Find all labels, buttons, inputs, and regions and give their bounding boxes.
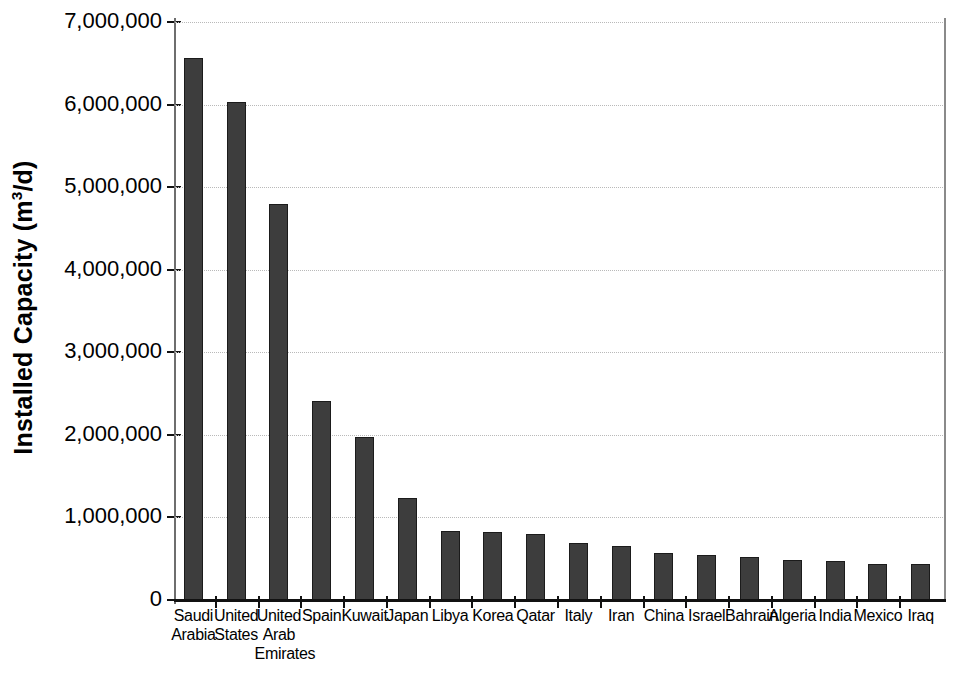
plot-area xyxy=(175,22,945,600)
x-axis-category-label: Kuwait xyxy=(340,606,389,625)
x-axis-category-label: Mexico xyxy=(853,606,902,625)
x-axis-category-label: Qatar xyxy=(511,606,560,625)
y-axis-tick-label: 6,000,000 xyxy=(0,93,162,115)
bar xyxy=(697,555,716,600)
y-axis-tick-label: 5,000,000 xyxy=(0,175,162,197)
bar xyxy=(483,532,502,600)
gridline xyxy=(175,270,945,271)
bar xyxy=(269,204,288,600)
bar xyxy=(783,560,802,600)
x-axis-category-label: United Arab Emirates xyxy=(255,606,304,663)
bar xyxy=(569,543,588,600)
bar xyxy=(826,561,845,600)
bar xyxy=(911,564,930,600)
y-axis-tick-label: 1,000,000 xyxy=(0,505,162,527)
x-axis-category-label: Libya xyxy=(426,606,475,625)
y-axis-title-main: Installed Capacity (m xyxy=(9,200,37,454)
y-axis-tick-label: 3,000,000 xyxy=(0,340,162,362)
bar xyxy=(441,531,460,600)
x-axis-category-label: Iran xyxy=(597,606,646,625)
y-axis-tick-label: 4,000,000 xyxy=(0,258,162,280)
bar xyxy=(740,557,759,600)
bar xyxy=(312,401,331,600)
gridline xyxy=(175,105,945,106)
x-axis-category-label: Israel xyxy=(682,606,731,625)
x-axis-category-label: Korea xyxy=(468,606,517,625)
gridline xyxy=(175,352,945,353)
gridline xyxy=(175,187,945,188)
x-axis-category-label: Italy xyxy=(554,606,603,625)
bar xyxy=(184,58,203,600)
bar xyxy=(868,564,887,600)
bar xyxy=(526,534,545,600)
x-axis-category-label: Iraq xyxy=(896,606,945,625)
y-axis-tick-label: 0 xyxy=(0,588,162,610)
x-axis-category-label: United States xyxy=(212,606,261,644)
bar-chart-figure: Installed Capacity (m3/d) 01,000,0002,00… xyxy=(0,0,957,682)
x-axis-category-label: Bahrain xyxy=(725,606,774,625)
plot-right-border xyxy=(944,18,946,602)
x-axis-category-label: Japan xyxy=(383,606,432,625)
bar xyxy=(398,498,417,600)
bar xyxy=(654,553,673,600)
bar xyxy=(612,546,631,600)
bar xyxy=(355,437,374,600)
x-axis-category-label: Spain xyxy=(297,606,346,625)
x-axis-category-label: Algeria xyxy=(768,606,817,625)
gridline xyxy=(175,517,945,518)
gridline xyxy=(175,435,945,436)
x-axis-category-label: India xyxy=(811,606,860,625)
x-axis-category-label: China xyxy=(640,606,689,625)
y-axis-tick-label: 7,000,000 xyxy=(0,10,162,32)
y-axis-title-text: Installed Capacity (m3/d) xyxy=(9,160,38,454)
y-axis-tick-label: 2,000,000 xyxy=(0,423,162,445)
x-axis-line xyxy=(174,599,946,602)
x-axis-category-label: Saudi Arabia xyxy=(169,606,218,644)
bar xyxy=(227,102,246,600)
gridline xyxy=(175,22,945,23)
